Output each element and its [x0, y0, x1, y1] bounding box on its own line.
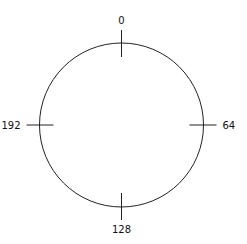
circular-dial: 064128192	[0, 0, 247, 244]
tick-label-0: 0	[118, 15, 124, 26]
tick-label-128: 128	[112, 224, 131, 235]
tick-label-192: 192	[1, 120, 20, 131]
dial-circle	[40, 43, 204, 207]
tick-label-64: 64	[223, 120, 236, 131]
